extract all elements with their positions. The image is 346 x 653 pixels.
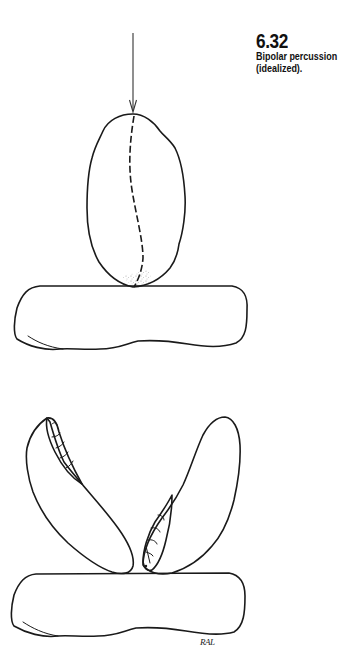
core-stone <box>87 114 185 287</box>
figure-title-line-2: (idealized). <box>256 63 337 74</box>
fracture-line <box>130 116 143 287</box>
figure-title-line-1: Bipolar percussion <box>256 51 337 62</box>
anvil-stone <box>11 573 245 636</box>
artist-signature: RAL <box>200 637 215 647</box>
top-panel <box>14 33 247 349</box>
figure-number: 6.32 <box>256 31 341 50</box>
bottom-panel <box>11 417 245 636</box>
flake-scar-right <box>143 495 172 571</box>
force-arrow-icon <box>130 33 137 112</box>
anvil-stone <box>14 286 247 349</box>
split-fragment-left <box>26 418 133 574</box>
bipolar-percussion-illustration <box>0 0 346 653</box>
figure-caption: 6.32 Bipolar percussion (idealized). <box>256 31 346 74</box>
split-fragment-right <box>143 417 240 574</box>
